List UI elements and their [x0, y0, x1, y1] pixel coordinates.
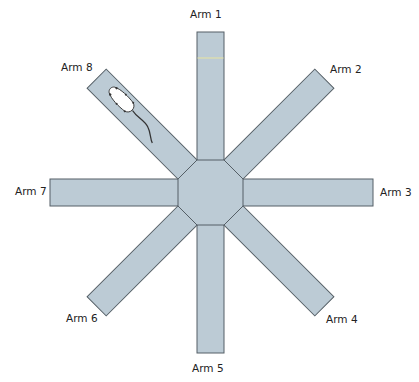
arm-7-label: Arm 7: [15, 185, 47, 197]
arm-8: [87, 69, 202, 184]
central-hub: [178, 160, 243, 225]
arm-1: [197, 32, 224, 162]
arm-6: [87, 201, 202, 316]
arm-2-label: Arm 2: [330, 63, 362, 75]
arm-8-label: Arm 8: [61, 61, 93, 73]
arm-7: [50, 179, 180, 206]
arm-6-label: Arm 6: [66, 312, 98, 324]
arm-2: [219, 69, 334, 184]
arm-5-label: Arm 5: [192, 362, 224, 374]
arm-3-label: Arm 3: [380, 186, 412, 198]
arm-5: [197, 223, 224, 353]
arm-3: [241, 179, 373, 206]
arm-4: [219, 201, 334, 316]
arm-1-label: Arm 1: [190, 8, 222, 20]
arm-4-label: Arm 4: [326, 313, 358, 325]
